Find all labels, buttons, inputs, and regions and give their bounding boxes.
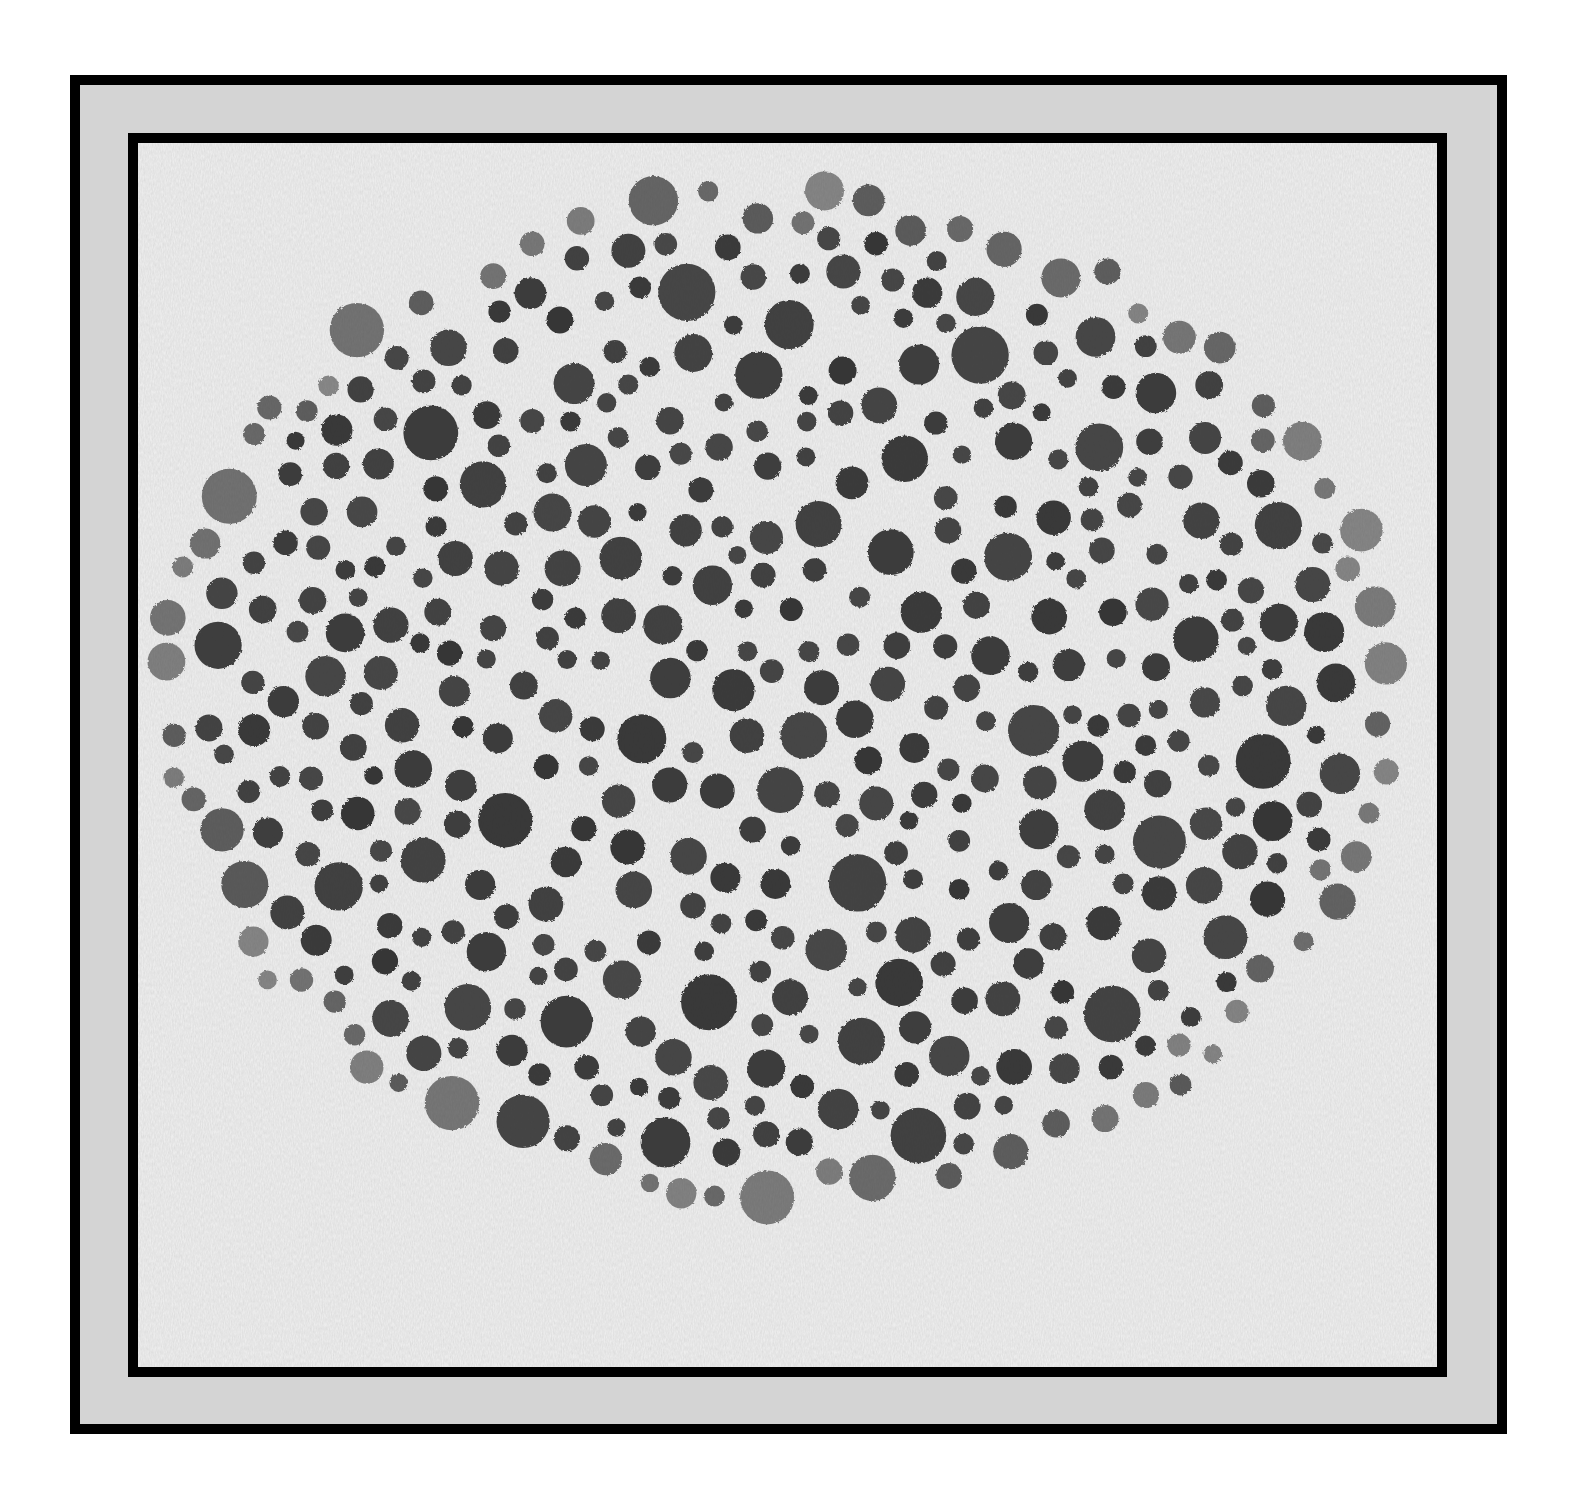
dot	[1220, 533, 1243, 556]
dot	[221, 861, 268, 908]
dot	[253, 818, 283, 848]
dot	[826, 254, 860, 288]
dot	[836, 701, 874, 739]
dot	[924, 696, 948, 720]
dot	[349, 588, 368, 607]
dot	[350, 692, 373, 715]
dot	[520, 232, 545, 257]
dot	[237, 780, 260, 803]
dot	[735, 600, 753, 618]
dot	[670, 443, 692, 465]
dot	[1168, 730, 1190, 752]
dot	[377, 913, 403, 939]
dot	[1135, 735, 1156, 756]
dot	[864, 232, 888, 256]
dot	[933, 634, 957, 658]
dot	[324, 990, 346, 1012]
dot	[1183, 503, 1219, 539]
dot	[364, 766, 383, 785]
dot	[963, 592, 990, 619]
dot	[1113, 874, 1134, 895]
dot	[894, 309, 913, 328]
dot	[347, 497, 378, 528]
dot	[674, 334, 712, 372]
dot	[1107, 649, 1126, 668]
dot	[866, 921, 887, 942]
dot	[1148, 980, 1169, 1001]
dot	[884, 841, 908, 865]
dot	[300, 498, 327, 525]
dot	[929, 1036, 969, 1076]
dot	[1190, 807, 1223, 840]
dot	[1099, 1055, 1124, 1080]
dot	[565, 608, 586, 629]
dot	[1048, 449, 1068, 469]
dot	[751, 563, 776, 588]
dot	[1031, 599, 1067, 635]
dot	[630, 1078, 648, 1096]
dot	[1128, 304, 1148, 324]
dot	[403, 406, 458, 461]
dot	[901, 592, 942, 633]
dot	[1086, 906, 1120, 940]
dot	[711, 516, 732, 537]
dot	[395, 750, 433, 788]
dot	[439, 676, 470, 707]
dot	[707, 1107, 730, 1130]
dot	[1019, 810, 1059, 850]
dot	[1051, 981, 1074, 1004]
dot	[1238, 577, 1264, 603]
dot	[871, 1101, 890, 1120]
dot	[534, 754, 559, 779]
dot	[640, 357, 660, 377]
dot	[608, 427, 629, 448]
dot	[849, 1155, 895, 1201]
dot	[599, 537, 642, 580]
dot	[971, 636, 1010, 675]
dot	[1133, 815, 1186, 868]
dot	[1204, 1045, 1223, 1064]
dot	[816, 1158, 842, 1184]
dot	[249, 596, 277, 624]
dot	[618, 375, 638, 395]
dot	[995, 1096, 1013, 1114]
dot	[430, 330, 467, 367]
dot	[311, 799, 333, 821]
dot	[1149, 700, 1168, 719]
dot	[849, 587, 870, 608]
dot	[989, 861, 1008, 880]
dot	[494, 904, 519, 929]
dot	[478, 793, 532, 847]
dot	[565, 246, 589, 270]
dot	[1045, 1016, 1068, 1039]
dot	[477, 649, 496, 668]
dot	[954, 675, 981, 702]
dot	[998, 381, 1026, 409]
dot	[195, 622, 242, 669]
dot	[442, 920, 465, 943]
dot	[554, 363, 595, 404]
dot	[900, 811, 919, 830]
dot	[287, 621, 309, 643]
dot	[483, 723, 513, 753]
dot	[765, 300, 814, 349]
dot	[868, 529, 914, 575]
dot	[927, 251, 947, 271]
dot	[1133, 1082, 1159, 1108]
dot	[504, 998, 525, 1019]
dot	[688, 477, 713, 502]
dot	[805, 171, 844, 210]
dot	[1117, 704, 1140, 727]
dot	[1190, 687, 1220, 717]
dot	[585, 940, 607, 962]
dot	[1094, 258, 1120, 284]
dot	[670, 838, 707, 875]
dot	[340, 734, 367, 761]
dot	[409, 291, 434, 316]
dot	[374, 408, 398, 432]
dot	[971, 765, 999, 793]
dot	[1365, 642, 1407, 684]
dot	[1063, 705, 1082, 724]
dot	[1314, 478, 1335, 499]
dot	[681, 974, 737, 1030]
